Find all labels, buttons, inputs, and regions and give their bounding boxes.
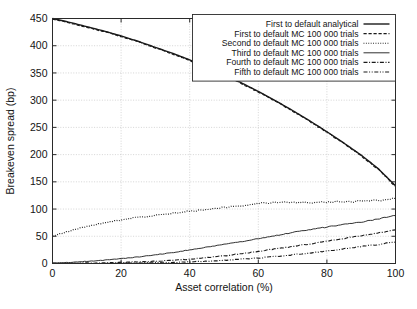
- y-tick-label: 450: [30, 12, 48, 24]
- x-tick-label: 60: [252, 267, 264, 279]
- x-axis-title: Asset correlation (%): [175, 281, 272, 293]
- x-tick-label: 100: [387, 267, 405, 279]
- breakeven-spread-line-chart: 020406080100 050100150200250300350400450…: [0, 0, 417, 309]
- x-tick-label: 40: [184, 267, 196, 279]
- x-tick-label: 20: [115, 267, 127, 279]
- x-tick-label: 80: [321, 267, 333, 279]
- legend-label: First to default MC 100 000 trials: [234, 29, 358, 39]
- chart-legend: First to default analyticalFirst to defa…: [193, 15, 396, 82]
- y-tick-label: 400: [30, 39, 48, 51]
- x-tick-label: 0: [50, 267, 56, 279]
- y-tick-label: 350: [30, 67, 48, 79]
- legend-label: Fifth to default MC 100 000 trials: [234, 67, 358, 77]
- y-tick-label: 300: [30, 94, 48, 106]
- legend-label: Fourth to default MC 100 000 trials: [226, 57, 358, 67]
- legend-label: Third to default MC 100 000 trials: [231, 48, 358, 58]
- y-tick-label: 250: [30, 121, 48, 133]
- y-axis-title: Breakeven spread (bp): [4, 88, 16, 195]
- y-tick-label: 150: [30, 175, 48, 187]
- y-tick-label: 100: [30, 203, 48, 215]
- y-tick-label: 200: [30, 148, 48, 160]
- legend-label: First to default analytical: [266, 19, 359, 29]
- y-tick-label: 0: [42, 257, 48, 269]
- legend-label: Second to default MC 100 000 trials: [222, 38, 359, 48]
- chart-figure: 020406080100 050100150200250300350400450…: [0, 0, 417, 309]
- y-tick-label: 50: [36, 230, 48, 242]
